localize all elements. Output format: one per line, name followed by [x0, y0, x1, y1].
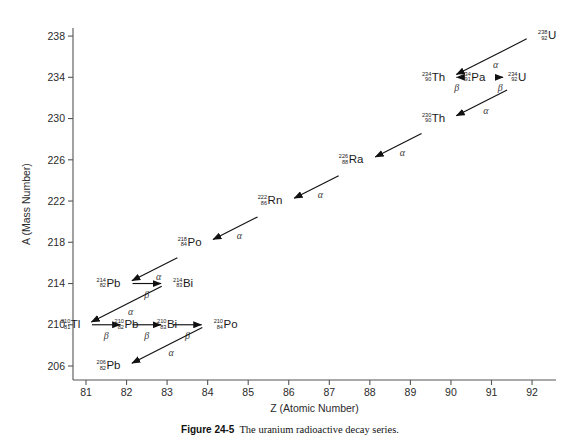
- decay-symbol-beta: β: [103, 330, 109, 341]
- nuclide-element-symbol: U: [518, 72, 526, 84]
- nuclide-mass-atomic: 23492: [508, 72, 517, 83]
- nuclide-atomic-number: 83: [173, 283, 182, 289]
- nuclide-label: 22286Rn: [258, 195, 283, 207]
- nuclide-label: 21084Po: [214, 319, 238, 331]
- nuclide-mass-atomic: 22286: [258, 195, 267, 206]
- nuclide-atomic-number: 83: [157, 325, 166, 331]
- x-axis-tick-label: 91: [486, 386, 498, 398]
- nuclide-element-symbol: Th: [432, 113, 445, 125]
- nuclide-label: 21082Pb: [115, 319, 139, 331]
- decay-series-plot: 2062102142182222262302342388182838485868…: [0, 0, 580, 447]
- nuclide-label: 23492U: [508, 71, 526, 83]
- nuclide-atomic-number: 82: [115, 325, 124, 331]
- nuclide-element-symbol: Ra: [349, 154, 364, 166]
- decay-arrow-alpha: [132, 258, 177, 281]
- nuclide-mass-atomic: 21082: [115, 319, 124, 330]
- decay-symbol-alpha: α: [318, 189, 324, 200]
- x-axis-tick-label: 87: [323, 386, 335, 398]
- nuclide-label: 23892U: [538, 30, 556, 42]
- nuclide-mass-atomic: 23491: [462, 72, 471, 83]
- nuclide-mass-atomic: 21884: [178, 237, 187, 248]
- nuclide-mass-atomic: 21483: [173, 278, 182, 289]
- decay-symbol-alpha: α: [128, 306, 134, 317]
- x-axis-tick-label: 82: [121, 386, 133, 398]
- y-axis-tick-label: 206: [47, 360, 65, 372]
- x-axis-tick-label: 86: [283, 386, 295, 398]
- nuclide-label: 23490Th: [422, 71, 445, 83]
- nuclide-atomic-number: 91: [462, 77, 471, 83]
- nuclide-label: 20682Pb: [97, 360, 121, 372]
- nuclide-atomic-number: 88: [339, 160, 348, 166]
- decay-symbol-beta: β: [453, 82, 459, 93]
- decay-arrow-alpha: [456, 39, 526, 75]
- x-axis-tick-label: 88: [364, 386, 376, 398]
- decay-arrow-alpha: [132, 327, 202, 363]
- y-axis-title: A (Mass Number): [20, 163, 32, 245]
- nuclide-element-symbol: Bi: [167, 319, 177, 331]
- nuclide-mass-atomic: 23090: [422, 113, 431, 124]
- nuclide-label: 21483Bi: [173, 278, 193, 290]
- x-axis-tick-label: 84: [202, 386, 214, 398]
- figure-caption: Figure 24-5The uranium radioactive decay…: [0, 424, 580, 435]
- decay-symbol-alpha: α: [237, 230, 243, 241]
- nuclide-atomic-number: 84: [214, 325, 223, 331]
- decay-arrow-alpha: [456, 90, 507, 116]
- nuclide-atomic-number: 81: [61, 325, 70, 331]
- decay-symbol-alpha: α: [493, 59, 499, 70]
- x-axis-tick-label: 83: [161, 386, 173, 398]
- nuclide-mass-atomic: 22688: [339, 154, 348, 165]
- decay-series-figure: 2062102142182222262302342388182838485868…: [0, 0, 580, 447]
- decay-arrow-alpha: [294, 176, 339, 199]
- nuclide-mass-atomic: 21482: [97, 278, 106, 289]
- caption-label: Figure 24-5: [181, 424, 234, 435]
- nuclide-element-symbol: Pb: [106, 360, 120, 372]
- nuclide-mass-atomic: 23490: [422, 72, 431, 83]
- nuclide-atomic-number: 92: [508, 77, 517, 83]
- decay-arrow-alpha: [213, 217, 258, 240]
- decay-symbol-alpha: α: [156, 271, 162, 282]
- nuclide-mass-atomic: 21084: [214, 319, 223, 330]
- nuclide-element-symbol: Th: [432, 72, 445, 84]
- nuclide-element-symbol: Pa: [471, 72, 485, 84]
- y-axis-tick-label: 238: [47, 30, 65, 42]
- nuclide-mass-atomic: 21083: [157, 319, 166, 330]
- y-axis-tick-label: 218: [47, 236, 65, 248]
- nuclide-element-symbol: Pb: [106, 278, 120, 290]
- nuclide-atomic-number: 90: [422, 118, 431, 124]
- nuclide-label: 21083Bi: [157, 319, 177, 331]
- nuclide-label: 23090Th: [422, 113, 445, 125]
- decay-arrow-alpha: [375, 134, 421, 158]
- nuclide-label: 21081Tl: [61, 319, 80, 331]
- decay-symbol-alpha: α: [483, 105, 489, 116]
- nuclide-element-symbol: Tl: [71, 319, 81, 331]
- decay-symbol-beta: β: [143, 330, 149, 341]
- x-axis-tick-label: 81: [80, 386, 92, 398]
- nuclide-atomic-number: 82: [97, 283, 106, 289]
- y-axis-tick-label: 222: [47, 195, 65, 207]
- x-axis-title: Z (Atomic Number): [270, 402, 359, 414]
- nuclide-atomic-number: 90: [422, 77, 431, 83]
- nuclide-atomic-number: 92: [538, 36, 547, 42]
- x-axis-tick-label: 90: [445, 386, 457, 398]
- nuclide-element-symbol: Rn: [268, 195, 283, 207]
- nuclide-element-symbol: Bi: [183, 278, 193, 290]
- y-axis-tick-label: 226: [47, 154, 65, 166]
- y-axis-tick-label: 230: [47, 112, 65, 124]
- decay-arrow-alpha: [91, 286, 161, 322]
- nuclide-label: 21884Po: [178, 236, 202, 248]
- decay-symbol-beta: β: [497, 82, 503, 93]
- nuclide-atomic-number: 82: [97, 366, 106, 372]
- decay-symbol-alpha: α: [400, 147, 406, 158]
- nuclide-label: 21482Pb: [97, 278, 121, 290]
- nuclide-element-symbol: Po: [187, 237, 201, 249]
- axes: 2062102142182222262302342388182838485868…: [20, 28, 556, 414]
- x-axis-tick-label: 85: [242, 386, 254, 398]
- nuclide-element-symbol: Po: [223, 319, 237, 331]
- y-axis-tick-label: 214: [47, 277, 65, 289]
- nuclide-atomic-number: 86: [258, 201, 267, 207]
- nuclide-mass-atomic: 21081: [61, 319, 70, 330]
- y-axis-tick-label: 234: [47, 71, 65, 83]
- nuclide-element-symbol: U: [548, 30, 556, 42]
- nuclide-label: 22688Ra: [339, 154, 364, 166]
- caption-text: The uranium radioactive decay series.: [239, 424, 398, 435]
